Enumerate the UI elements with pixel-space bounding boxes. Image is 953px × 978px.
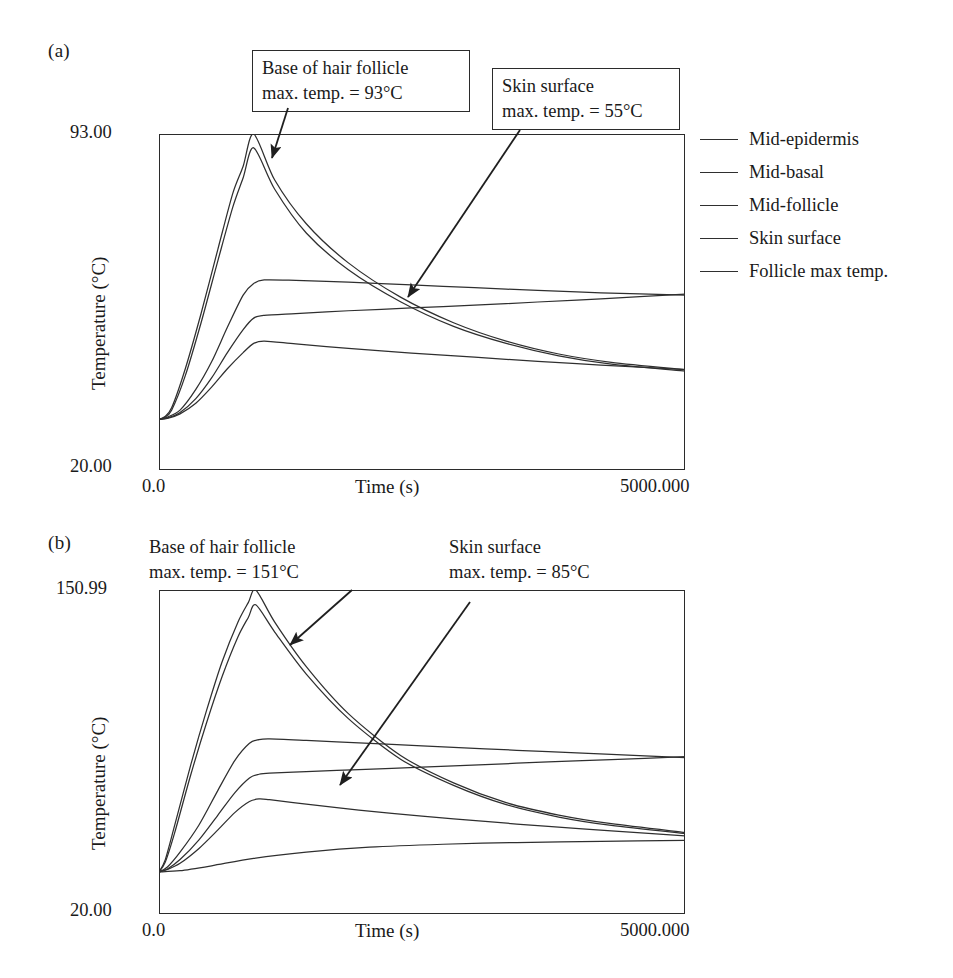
panel-a-xaxis-title: Time (s) (355, 476, 419, 498)
legend-line-icon (700, 271, 738, 272)
panel-b-callout-follicle: Base of hair follicle max. temp. = 151°C (140, 530, 368, 590)
legend-item-label: Mid-epidermis (749, 129, 859, 150)
legend-item-label: Mid-basal (749, 162, 824, 183)
series-line-mid-epidermis (159, 739, 685, 872)
panel-a: (a) Base of hair follicle max. temp. = 9… (0, 0, 953, 510)
legend-item-label: Follicle max temp. (749, 261, 888, 282)
series-line-skin-surface (159, 341, 685, 419)
panel-a-xtick-right: 5000.000 (620, 476, 689, 497)
panel-a-series-lines (159, 134, 685, 470)
legend-line-icon (700, 139, 738, 140)
panel-b-ytick-bottom: 20.00 (70, 900, 112, 921)
series-line-follicle-max-temp (159, 134, 685, 419)
panel-a-xtick-left: 0.0 (142, 476, 165, 497)
panel-b-yaxis-title: Temperature (°C) (88, 717, 110, 850)
panel-a-yaxis-title: Temperature (°C) (88, 257, 110, 390)
legend-item: Mid-basal (700, 156, 950, 189)
panel-b-label: (b) (48, 532, 71, 554)
legend-item: Mid-epidermis (700, 123, 950, 156)
panel-b-xtick-left: 0.0 (142, 920, 165, 941)
legend-item-label: Mid-follicle (749, 195, 838, 216)
panel-a-ytick-top: 93.00 (70, 122, 112, 143)
legend-item: Follicle max temp. (700, 255, 950, 288)
panel-a-label: (a) (48, 40, 70, 62)
panel-a-callout-skin: Skin surface max. temp. = 55°C (492, 68, 680, 130)
panel-b-callout-skin: Skin surface max. temp. = 85°C (440, 530, 648, 590)
panel-a-ytick-bottom: 20.00 (70, 456, 112, 477)
series-line-mid-follicle (159, 605, 685, 872)
series-line-mid-follicle (159, 148, 685, 420)
panel-a-legend: Mid-epidermisMid-basalMid-follicleSkin s… (700, 123, 950, 288)
figure-temperature-profiles: (a) Base of hair follicle max. temp. = 9… (0, 0, 953, 978)
legend-line-icon (700, 172, 738, 173)
series-line-mid-basal (159, 757, 685, 872)
panel-b-ytick-top: 150.99 (56, 578, 107, 599)
series-line-mid-epidermis (159, 280, 685, 420)
panel-a-plot-area (159, 134, 685, 470)
legend-item: Skin surface (700, 222, 950, 255)
panel-b-plot-area (159, 590, 685, 914)
legend-line-icon (700, 205, 738, 206)
legend-item: Mid-follicle (700, 189, 950, 222)
panel-b-xaxis-title: Time (s) (355, 920, 419, 942)
series-line-follicle-max-temp (159, 590, 685, 872)
legend-item-label: Skin surface (749, 228, 841, 249)
legend-line-icon (700, 238, 738, 239)
panel-a-callout-follicle: Base of hair follicle max. temp. = 93°C (252, 50, 470, 112)
panel-b-xtick-right: 5000.000 (620, 920, 689, 941)
panel-b-series-lines (159, 590, 685, 914)
panel-b: (b) Base of hair follicle max. temp. = 1… (0, 510, 953, 978)
series-line-baseline (159, 840, 685, 872)
